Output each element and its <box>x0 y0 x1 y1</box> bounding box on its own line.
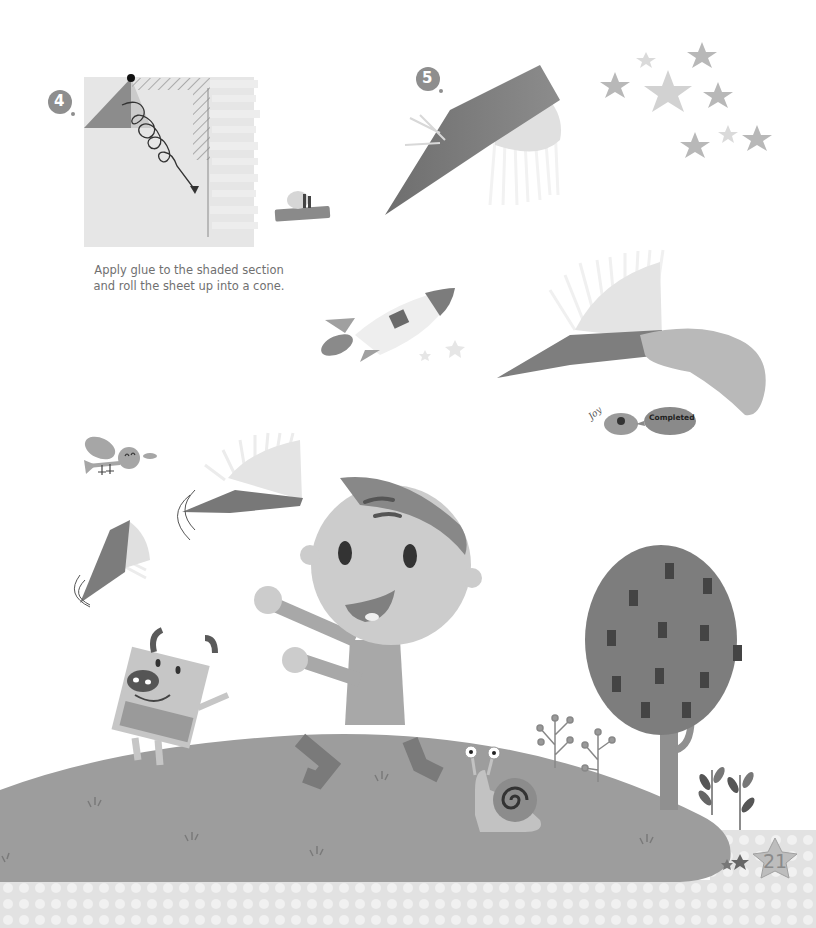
grass-hill <box>0 734 731 882</box>
step4-caption-line2: and roll the sheet up into a cone. <box>84 278 294 294</box>
stars-decoration <box>600 42 772 158</box>
step4-caption: Apply glue to the shaded section and rol… <box>84 262 294 294</box>
scene-illustration <box>0 0 816 928</box>
bee-glue-icon <box>275 191 331 222</box>
bird-decoration <box>81 432 157 475</box>
rocket-decoration <box>318 288 465 362</box>
step5-number: 5 <box>422 69 432 87</box>
step4-caption-line1: Apply glue to the shaded section <box>84 262 294 278</box>
flying-cone-1 <box>178 433 304 540</box>
step4-number: 4 <box>54 92 64 110</box>
page-number: 21 <box>755 850 795 872</box>
step5-cone <box>385 65 561 215</box>
flying-cone-2 <box>74 520 150 607</box>
completed-label: Completed <box>649 413 695 422</box>
step4-diagram <box>84 74 260 247</box>
finished-cone-in-hand <box>497 250 766 415</box>
